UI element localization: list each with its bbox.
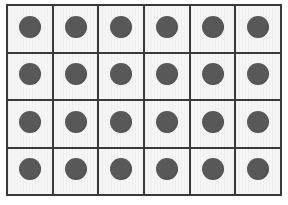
grid-cell[interactable] [191, 101, 237, 147]
circle-icon [19, 111, 41, 133]
circle-icon [19, 158, 41, 180]
circle-icon [110, 111, 132, 133]
circle-icon [247, 158, 269, 180]
circle-icon [65, 111, 87, 133]
grid-cell[interactable] [99, 6, 145, 52]
grid-cell[interactable] [54, 54, 100, 100]
grid-row [8, 6, 280, 54]
dot-grid-figure [6, 4, 282, 196]
grid-cell[interactable] [8, 6, 54, 52]
grid-row [8, 149, 280, 195]
grid-cell[interactable] [191, 149, 237, 195]
grid-cell[interactable] [145, 6, 191, 52]
page-canvas [0, 0, 288, 205]
grid-cell[interactable] [99, 54, 145, 100]
circle-icon [65, 16, 87, 38]
circle-icon [19, 63, 41, 85]
grid-cell[interactable] [8, 149, 54, 195]
circle-icon [247, 111, 269, 133]
circle-icon [156, 63, 178, 85]
grid-cell[interactable] [145, 149, 191, 195]
grid-cell[interactable] [236, 101, 280, 147]
circle-icon [156, 16, 178, 38]
circle-icon [110, 16, 132, 38]
grid-row [8, 101, 280, 149]
circle-icon [202, 16, 224, 38]
circle-icon [202, 111, 224, 133]
circle-icon [202, 158, 224, 180]
circle-icon [110, 158, 132, 180]
grid-cell[interactable] [145, 54, 191, 100]
grid-cell[interactable] [54, 6, 100, 52]
grid-cell[interactable] [236, 6, 280, 52]
circle-icon [19, 16, 41, 38]
grid-cell[interactable] [8, 54, 54, 100]
grid-cell[interactable] [145, 101, 191, 147]
grid-cell[interactable] [191, 6, 237, 52]
circle-icon [65, 63, 87, 85]
grid-cell[interactable] [191, 54, 237, 100]
circle-icon [65, 158, 87, 180]
grid-cell[interactable] [54, 101, 100, 147]
grid-cell[interactable] [99, 101, 145, 147]
grid-cell[interactable] [236, 149, 280, 195]
circle-icon [110, 63, 132, 85]
grid-cell[interactable] [99, 149, 145, 195]
grid-cell[interactable] [54, 149, 100, 195]
circle-icon [247, 16, 269, 38]
circle-icon [202, 63, 224, 85]
circle-icon [156, 158, 178, 180]
circle-icon [247, 63, 269, 85]
grid-cell[interactable] [8, 101, 54, 147]
circle-icon [156, 111, 178, 133]
grid-row [8, 54, 280, 102]
grid-cell[interactable] [236, 54, 280, 100]
